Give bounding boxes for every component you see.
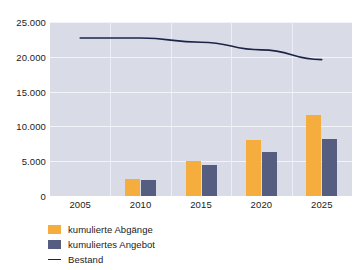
y-tick-label: 20.000 — [16, 51, 46, 62]
legend-swatch-line-icon — [48, 255, 61, 264]
chart-legend: kumulierte Abgängekumuliertes AngebotBes… — [48, 222, 348, 267]
legend-item-label: kumuliertes Angebot — [68, 239, 155, 250]
x-tick-label: 2005 — [69, 199, 91, 210]
y-tick-label: 0 — [41, 191, 46, 202]
bestand-line — [50, 22, 352, 196]
x-tick-label: 2020 — [251, 199, 273, 210]
legend-item[interactable]: Bestand — [48, 252, 348, 266]
legend-item-label: kumulierte Abgänge — [68, 224, 153, 235]
x-axis: 20052010201520202025 — [50, 199, 352, 215]
legend-swatch-square-icon — [48, 240, 61, 249]
legend-item[interactable]: kumulierte Abgänge — [48, 222, 348, 236]
legend-item-label: Bestand — [68, 254, 103, 265]
y-axis: 05.00010.00015.00020.00025.000 — [0, 22, 46, 196]
y-tick-label: 10.000 — [16, 121, 46, 132]
legend-item[interactable]: kumuliertes Angebot — [48, 237, 348, 251]
x-tick-label: 2025 — [311, 199, 333, 210]
bestand-line-path — [80, 38, 322, 60]
plot-area — [50, 22, 352, 196]
y-tick-label: 25.000 — [16, 17, 46, 28]
chart-figure: 05.00010.00015.00020.00025.000 200520102… — [0, 0, 364, 270]
x-tick-label: 2010 — [130, 199, 152, 210]
legend-swatch-square-icon — [48, 225, 61, 234]
x-tick-label: 2015 — [190, 199, 212, 210]
y-tick-label: 15.000 — [16, 86, 46, 97]
y-tick-label: 5.000 — [22, 156, 46, 167]
